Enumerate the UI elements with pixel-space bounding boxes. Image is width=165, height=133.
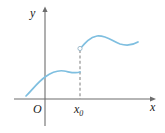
math-figure: y x O x0 [0, 0, 165, 133]
curve-right-branch [80, 36, 138, 49]
x-axis [14, 96, 156, 101]
x-zero-label: x0 [74, 103, 83, 118]
y-axis-arrow-icon [42, 7, 47, 13]
y-axis [42, 7, 47, 127]
open-circle-endpoint-icon [78, 46, 82, 50]
y-axis-label: y [30, 7, 35, 19]
curve-left-branch [26, 71, 80, 96]
x-axis-label: x [150, 101, 155, 113]
origin-label: O [33, 103, 42, 115]
x-zero-subscript: 0 [79, 109, 83, 118]
